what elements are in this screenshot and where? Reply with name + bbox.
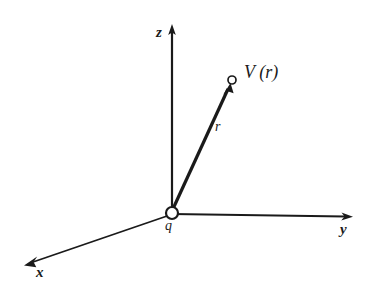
r-vector [172, 83, 234, 211]
r-vector-line [172, 89, 228, 211]
z-axis [168, 24, 176, 212]
x-axis [24, 215, 170, 267]
y-axis-line [172, 214, 345, 217]
z-axis-label: z [156, 25, 162, 40]
field-point-marker [228, 76, 236, 84]
coordinate-diagram: z y x q r V (r) [0, 0, 377, 294]
x-axis-line [33, 215, 170, 262]
y-axis-label: y [340, 222, 347, 237]
r-vector-label: r [215, 120, 220, 134]
diagram-svg [0, 0, 377, 294]
y-axis [172, 213, 353, 221]
field-point-label: V (r) [244, 63, 278, 81]
x-axis-label: x [36, 265, 44, 280]
origin-charge-label: q [165, 219, 172, 233]
